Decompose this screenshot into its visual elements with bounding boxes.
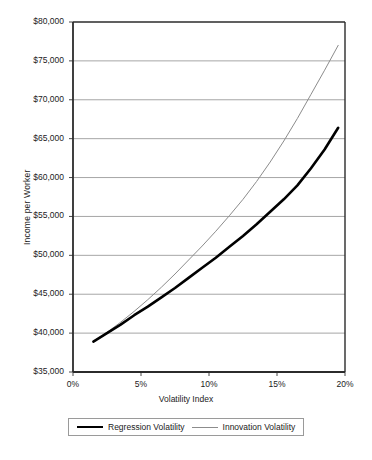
x-tick-label: 20%: [325, 379, 365, 389]
legend-swatch-regression-icon: [77, 426, 103, 428]
plot-frame: [73, 22, 345, 372]
y-tick-label: $80,000: [6, 16, 64, 26]
x-tick-label: 10%: [189, 379, 229, 389]
chart-container: Income per Worker $35,000$40,000$45,000$…: [0, 0, 372, 460]
legend-item-innovation: Innovation Volatility: [192, 422, 296, 432]
x-tick-label: 15%: [257, 379, 297, 389]
y-tick-label: $40,000: [6, 327, 64, 337]
x-tick-label: 0%: [53, 379, 93, 389]
legend-label-innovation: Innovation Volatility: [223, 422, 296, 432]
chart-legend: Regression Volatility Innovation Volatil…: [68, 418, 304, 436]
x-tick-label: 5%: [121, 379, 161, 389]
y-tick-label: $45,000: [6, 288, 64, 298]
gridlines: [73, 61, 345, 333]
y-tick-label: $55,000: [6, 210, 64, 220]
legend-label-regression: Regression Volatility: [108, 422, 185, 432]
series-lines: [93, 45, 338, 341]
plot-area: [0, 0, 372, 460]
y-tick-label: $35,000: [6, 366, 64, 376]
legend-swatch-innovation-icon: [192, 427, 218, 428]
y-tick-label: $50,000: [6, 249, 64, 259]
y-tick-label: $70,000: [6, 94, 64, 104]
y-tick-label: $65,000: [6, 133, 64, 143]
y-tick-label: $75,000: [6, 55, 64, 65]
legend-item-regression: Regression Volatility: [77, 422, 185, 432]
y-tick-label: $60,000: [6, 172, 64, 182]
x-axis-title: Volatility Index: [0, 394, 372, 404]
